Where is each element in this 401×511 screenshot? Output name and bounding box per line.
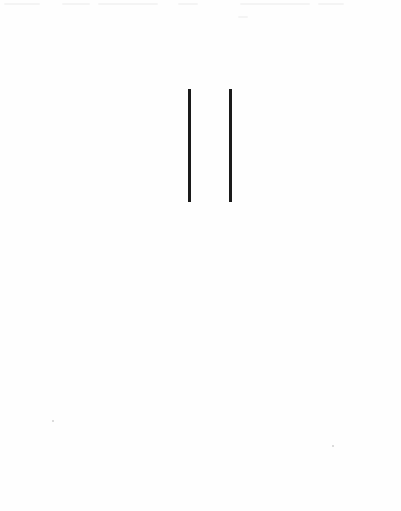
bleed-mark: [318, 3, 344, 5]
faint-bleed-through-text: [0, 0, 401, 30]
scan-speck: [52, 420, 54, 422]
bleed-mark: [238, 16, 248, 18]
left-vertical-rule: [188, 89, 191, 202]
right-vertical-rule: [229, 89, 232, 202]
bleed-mark: [98, 3, 158, 5]
bleed-mark: [62, 3, 90, 5]
scan-speck: [332, 445, 334, 447]
bleed-mark: [4, 3, 40, 5]
scanned-page: [0, 0, 401, 511]
bleed-mark: [178, 3, 198, 5]
bleed-mark: [240, 3, 310, 5]
